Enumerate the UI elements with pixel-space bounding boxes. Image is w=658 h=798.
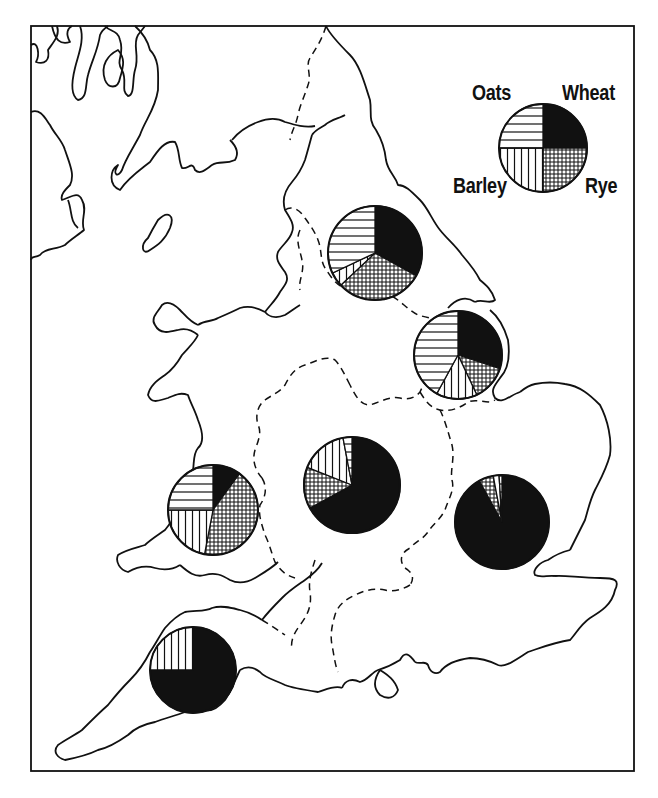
legend-pie xyxy=(499,104,587,192)
region-pie xyxy=(150,627,236,713)
legend-label-rye: Rye xyxy=(585,173,617,199)
region-pie xyxy=(328,206,422,300)
region-pie xyxy=(414,311,502,399)
legend-label-barley: Barley xyxy=(453,173,507,199)
pie-charts xyxy=(150,104,587,713)
region-pie xyxy=(168,465,258,555)
legend-label-oats: Oats xyxy=(472,80,511,106)
map-canvas xyxy=(0,0,658,798)
region-pie xyxy=(455,475,549,569)
region-pie xyxy=(304,437,400,533)
legend-label-wheat: Wheat xyxy=(562,80,615,106)
